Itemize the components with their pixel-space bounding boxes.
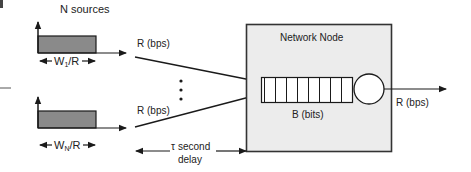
delay-label-line2: delay bbox=[178, 154, 202, 165]
sources-title: N sources bbox=[60, 3, 110, 15]
network-node-diagram: N sources W1/R R (bps) WN/R R (bps) Netw… bbox=[0, 0, 471, 172]
source-1-link bbox=[135, 57, 261, 82]
network-node: Network Node B (bits) bbox=[247, 25, 392, 152]
buffer-label: B (bits) bbox=[292, 109, 324, 120]
delay-annotation: τsecond delay bbox=[136, 141, 246, 165]
source-n: WN/R R (bps) bbox=[38, 94, 261, 152]
server-icon bbox=[354, 74, 384, 104]
delay-label-line1: τsecond bbox=[171, 141, 210, 152]
source-1-pulse bbox=[38, 36, 96, 53]
buffer-queue bbox=[262, 78, 353, 103]
output-rate-label: R (bps) bbox=[396, 97, 429, 108]
ellipsis-icon bbox=[179, 79, 182, 100]
network-node-title: Network Node bbox=[280, 32, 344, 43]
source-1-rate-label: R (bps) bbox=[137, 38, 170, 49]
scan-artifact bbox=[0, 0, 3, 8]
source-n-pulse bbox=[38, 111, 96, 128]
source-n-width-label: WN/R bbox=[54, 139, 81, 152]
source-n-rate-label: R (bps) bbox=[137, 105, 170, 116]
source-1-width-label: W1/R bbox=[54, 55, 79, 68]
source-1: W1/R R (bps) bbox=[38, 22, 261, 82]
